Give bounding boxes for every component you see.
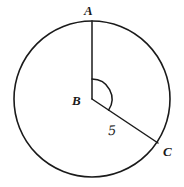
geometry-figure: A B C 5 (0, 0, 184, 187)
point-label-a: A (84, 4, 93, 17)
point-label-b: B (72, 94, 81, 107)
segment-bc-measure-label: 5 (108, 124, 117, 138)
radius-segment-bc (92, 99, 158, 143)
point-label-c: C (163, 145, 172, 158)
circle-diagram-canvas (0, 0, 184, 187)
